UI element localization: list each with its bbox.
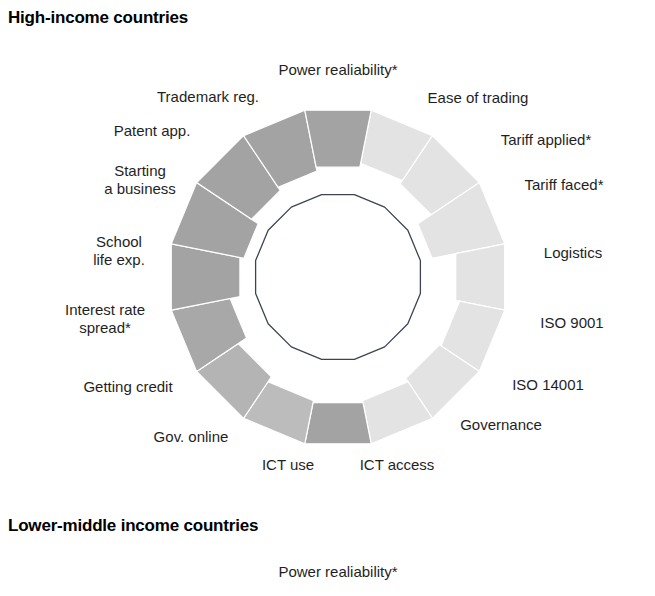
polar-chart-high-income: Power realiability*Ease of tradingTariff…: [0, 0, 655, 500]
polar-sector[interactable]: [456, 244, 505, 310]
polar-chart-lower-middle-income: Power realiability*: [0, 500, 655, 596]
panel-lower-middle-income: Lower-middle income countries Power real…: [0, 500, 655, 596]
polar-sector[interactable]: [305, 110, 371, 167]
polar-sector[interactable]: [305, 403, 371, 444]
panel-high-income: High-income countries Power realiability…: [0, 0, 655, 500]
polar-chart-svg: [0, 0, 655, 500]
axis-label-power-realiability-2: Power realiability*: [278, 563, 397, 581]
reference-baseline-polygon: [256, 195, 421, 360]
